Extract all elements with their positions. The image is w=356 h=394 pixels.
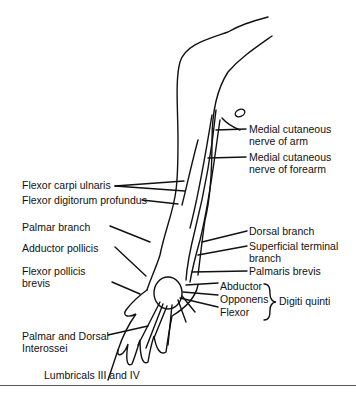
- label-superficial-terminal-branch-line2: branch: [249, 253, 281, 265]
- label-flexor-carpi-ulnaris: Flexor carpi ulnaris: [22, 180, 111, 192]
- label-medial-cutaneous-nerve-arm-line1: Medial cutaneous: [249, 124, 331, 136]
- label-adductor-pollicis: Adductor pollicis: [22, 243, 98, 255]
- bottom-divider: [0, 385, 356, 386]
- label-interossei-line1: Palmar and Dorsal: [22, 331, 109, 343]
- label-palmaris-brevis: Palmaris brevis: [249, 266, 321, 278]
- label-lumbricals: Lumbricals III and IV: [44, 370, 140, 382]
- label-medial-cutaneous-nerve-arm-line2: nerve of arm: [249, 136, 308, 148]
- label-flexor-pollicis-brevis-line1: Flexor pollicis: [22, 266, 86, 278]
- label-flexor-pollicis-brevis-line2: brevis: [22, 278, 50, 290]
- label-palmar-branch: Palmar branch: [22, 222, 90, 234]
- label-opponens: Opponens: [220, 294, 268, 306]
- label-medial-cutaneous-nerve-forearm-line1: Medial cutaneous: [249, 152, 331, 164]
- label-abductor: Abductor: [220, 281, 262, 293]
- label-medial-cutaneous-nerve-forearm-line2: nerve of forearm: [249, 164, 326, 176]
- label-interossei-line2: Interossei: [22, 343, 68, 355]
- label-superficial-terminal-branch-line1: Superficial terminal: [249, 241, 338, 253]
- label-dorsal-branch: Dorsal branch: [249, 226, 314, 238]
- label-digiti-quinti: Digiti quinti: [279, 296, 330, 308]
- label-flexor-digitorum-profundus: Flexor digitorum profundus: [22, 195, 147, 207]
- label-flexor: Flexor: [220, 307, 249, 319]
- hand-outline: [118, 285, 198, 365]
